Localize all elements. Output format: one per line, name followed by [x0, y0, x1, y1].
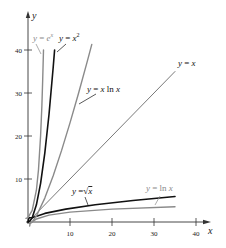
curve-ln: [30, 207, 175, 226]
leader-sqrt: [85, 197, 88, 205]
curves: [26, 44, 175, 226]
y-tick-40: 40: [15, 47, 23, 55]
x-axis-label: x: [207, 225, 213, 236]
leader-square: [57, 44, 66, 52]
axes: y x 10 20 30 40 10 20 30 40: [15, 10, 213, 238]
label-ln: y = ln x: [145, 183, 173, 193]
x-tick-30: 30: [151, 230, 159, 238]
leader-xlnx: [79, 94, 96, 104]
label-sqrt: y =√x: [71, 186, 92, 196]
y-tick-20: 20: [15, 133, 23, 141]
curve-exp: [26, 50, 44, 218]
chart: y x 10 20 30 40 10 20 30 40: [0, 0, 226, 248]
label-xlnx: y = x ln x: [86, 84, 120, 94]
x-tick-40: 40: [193, 230, 201, 238]
x-tick-10: 10: [67, 230, 75, 238]
y-tick-30: 30: [15, 90, 23, 98]
leader-ln: [155, 196, 160, 205]
leader-exp: [36, 44, 41, 54]
y-tick-10: 10: [15, 176, 23, 184]
label-exp: y = ex: [32, 32, 54, 43]
y-axis-label: y: [31, 10, 37, 21]
x-tick-20: 20: [109, 230, 117, 238]
label-identity: y = x: [177, 58, 196, 68]
curve-xlnx: [30, 44, 92, 223]
leader-lines: [36, 44, 160, 205]
label-square: y = x2: [58, 32, 80, 43]
x-axis-arrow-icon: [203, 220, 211, 224]
y-axis-arrow-icon: [26, 11, 30, 18]
